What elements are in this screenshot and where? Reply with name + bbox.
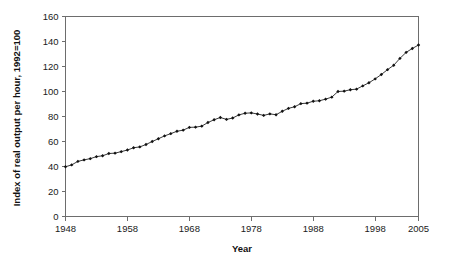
y-tick-label-120: 120 xyxy=(43,61,59,72)
chart-background xyxy=(0,0,449,276)
line-chart: 020406080100120140160 194819581968197819… xyxy=(0,0,449,276)
y-axis-title: Index of real output per hour, 1992=100 xyxy=(11,30,22,207)
y-tick-label-20: 20 xyxy=(48,186,59,197)
y-tick-label-0: 0 xyxy=(53,211,58,222)
x-tick-label-1978: 1978 xyxy=(241,223,262,234)
y-tick-label-80: 80 xyxy=(48,111,59,122)
y-tick-label-60: 60 xyxy=(48,136,59,147)
x-tick-label-1968: 1968 xyxy=(179,223,200,234)
x-tick-label-1988: 1988 xyxy=(303,223,324,234)
x-tick-label-1948: 1948 xyxy=(55,223,76,234)
x-tick-label-1958: 1958 xyxy=(117,223,138,234)
y-tick-label-140: 140 xyxy=(43,36,59,47)
x-tick-label-1998: 1998 xyxy=(365,223,386,234)
y-tick-label-40: 40 xyxy=(48,161,59,172)
x-axis-title: Year xyxy=(232,243,252,254)
y-tick-label-160: 160 xyxy=(43,11,59,22)
chart-figure: 020406080100120140160 194819581968197819… xyxy=(0,0,449,276)
x-tick-label-2005: 2005 xyxy=(408,223,429,234)
y-tick-label-100: 100 xyxy=(43,86,59,97)
